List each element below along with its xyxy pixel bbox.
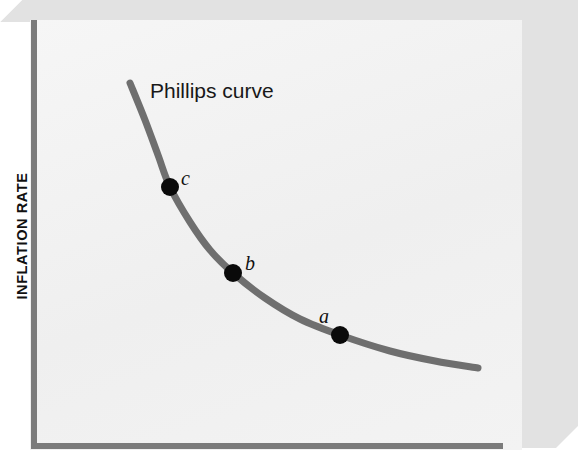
panel-sheen <box>30 20 522 450</box>
curve-title-label: Phillips curve <box>150 79 274 103</box>
point-label-b: b <box>245 252 255 275</box>
block-top-face <box>0 0 578 22</box>
point-label-c: c <box>181 167 190 190</box>
plot-panel <box>30 20 522 450</box>
point-label-a: a <box>319 305 329 328</box>
y-axis-line <box>31 20 37 449</box>
phillips-curve-figure: INFLATION RATE Phillips curve c b a <box>0 0 578 461</box>
x-axis-line <box>31 443 503 449</box>
y-axis-label: INFLATION RATE <box>14 136 30 336</box>
